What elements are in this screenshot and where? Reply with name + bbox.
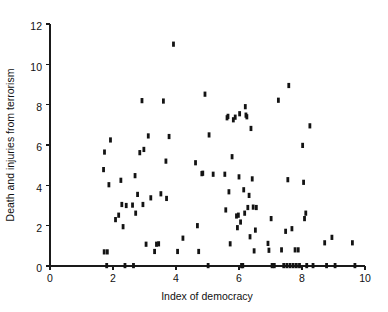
data-point [142,147,145,152]
data-point [251,176,254,181]
data-point [301,143,304,148]
data-point [124,263,127,268]
data-point [243,211,246,216]
data-point [270,216,273,221]
data-point [228,189,231,194]
data-point [201,171,204,176]
data-point [250,126,253,131]
y-axis-title: Death and injuries from terrorism [4,68,16,221]
x-tick-label: 2 [110,272,116,284]
x-axis: 0246810 [47,266,371,284]
data-point [294,247,297,252]
data-point [268,248,271,253]
data-point [286,177,289,182]
data-point [106,249,109,254]
data-point [245,114,248,119]
data-point [255,205,258,210]
data-point [273,263,276,268]
plot-canvas: 024681012 0246810 Index of democracy Dea… [0,0,388,312]
data-point [212,172,215,177]
data-point [234,115,237,120]
data-point [227,114,230,119]
data-point [141,98,144,103]
data-point [305,263,308,268]
data-point [119,178,122,183]
data-point [244,104,247,109]
data-point [117,213,120,218]
data-point [103,249,106,254]
data-point [182,236,185,241]
y-tick-label: 2 [36,222,42,234]
data-point [114,217,117,222]
data-point [249,234,252,239]
data-point [125,203,128,208]
data-point [292,263,295,268]
y-tick-label: 6 [36,141,42,153]
data-point [254,228,257,233]
data-point [145,242,148,247]
data-point [122,224,125,229]
data-point [229,241,232,246]
data-point [267,241,270,246]
data-point [194,160,197,165]
data-point [207,263,210,268]
data-point [285,263,288,268]
data-point [131,203,134,208]
data-point [242,187,245,192]
data-point [354,263,357,268]
data-point [323,240,326,245]
data-point [284,229,287,234]
data-points-layer [102,42,356,269]
data-point [162,98,165,103]
data-point [138,150,141,155]
y-tick-label: 0 [36,262,42,274]
x-axis-title: Index of democracy [161,290,253,302]
data-point [304,211,307,216]
data-point [108,182,111,187]
data-point [291,226,294,231]
data-point [303,216,306,221]
data-point [295,263,298,268]
data-point [282,263,285,268]
y-axis: 024681012 [30,20,50,274]
data-point [287,83,290,88]
x-tick-label: 10 [359,272,371,284]
data-point [289,263,292,268]
y-tick-label: 8 [36,101,42,113]
x-tick-label: 4 [173,272,179,284]
data-point [312,263,315,268]
data-point [308,123,311,128]
data-point [134,211,137,216]
data-point [334,263,337,268]
data-point [223,172,226,177]
x-tick-label: 6 [236,272,242,284]
data-point [237,213,240,218]
data-point [134,173,137,178]
data-point [248,193,251,198]
data-point [236,225,239,230]
data-point [238,111,241,116]
data-point [159,191,162,196]
data-point [280,247,283,252]
data-point [168,134,171,139]
data-point [238,174,241,179]
data-point [241,263,244,268]
data-point [172,42,175,47]
data-point [224,207,227,212]
x-tick-label: 0 [47,272,53,284]
x-axis-ticks: 0246810 [47,266,371,284]
y-tick-label: 12 [30,20,42,32]
y-tick-label: 4 [36,182,42,194]
data-point [239,219,242,224]
data-point [331,235,334,240]
data-point [246,205,249,210]
data-point [208,132,211,137]
x-tick-label: 8 [299,272,305,284]
data-point [325,263,328,268]
data-point [102,167,105,172]
data-point [204,92,207,97]
data-point [302,180,305,185]
data-point [165,159,168,164]
data-point [231,154,234,159]
data-point [109,137,112,142]
